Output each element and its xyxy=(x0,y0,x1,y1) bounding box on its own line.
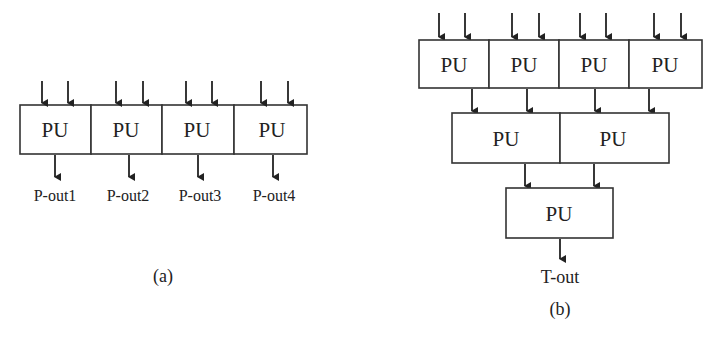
output-arrows-a xyxy=(55,155,273,177)
pu-level1-b: PU PU PU PU xyxy=(419,40,702,88)
caption-b: (b) xyxy=(550,299,571,320)
diagram-a: PU PU PU PU P-out1 P-out2 P-out3 P-out4 xyxy=(20,81,307,287)
output-label-p-out2: P-out2 xyxy=(107,187,150,204)
pu-a3-label: PU xyxy=(184,118,211,142)
pu-b-l1-1-label: PU xyxy=(441,53,468,77)
arrows-l2-to-l3 xyxy=(525,164,594,186)
diagram-canvas: PU PU PU PU P-out1 P-out2 P-out3 P-out4 xyxy=(0,0,725,356)
pu-level2-b: PU PU xyxy=(452,113,669,163)
pu-a1-label: PU xyxy=(42,118,69,142)
output-labels-a: P-out1 P-out2 P-out3 P-out4 xyxy=(34,187,296,204)
output-label-p-out4: P-out4 xyxy=(253,187,296,204)
diagram-b: PU PU PU PU PU PU PU T-out (b) xyxy=(419,13,702,320)
pu-a4-label: PU xyxy=(259,118,286,142)
pu-b-l1-2-label: PU xyxy=(511,53,538,77)
pu-b-l1-3-label: PU xyxy=(581,53,608,77)
output-label-t-out: T-out xyxy=(541,267,579,287)
output-label-p-out3: P-out3 xyxy=(179,187,222,204)
pu-b-l1-4-label: PU xyxy=(652,53,679,77)
arrows-l1-to-l2 xyxy=(472,89,649,111)
pu-level3-b: PU xyxy=(506,188,613,238)
input-arrows-b xyxy=(439,13,681,37)
input-arrows-a xyxy=(42,81,288,103)
pu-a2-label: PU xyxy=(113,118,140,142)
caption-a: (a) xyxy=(153,266,173,287)
pu-b-l2-1-label: PU xyxy=(493,127,520,151)
pu-b-l3-1-label: PU xyxy=(546,202,573,226)
output-label-p-out1: P-out1 xyxy=(34,187,77,204)
pu-array-a: PU PU PU PU xyxy=(20,105,307,154)
pu-b-l2-2-label: PU xyxy=(600,127,627,151)
